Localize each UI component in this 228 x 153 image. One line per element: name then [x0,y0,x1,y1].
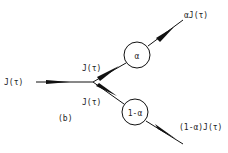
lower-output-arrow [146,121,183,144]
alpha-node-label: α [135,52,140,61]
lower-edge-label: J(τ) [82,98,101,107]
upper-output-arrow [148,20,183,46]
panel-label: (b) [58,114,72,123]
input-label: J(τ) [4,78,23,87]
upper-output-label: αJ(τ) [184,11,208,20]
flow-split-diagram: J(τ) J(τ) J(τ) α 1-α αJ(τ) (1-α)J(τ) (b) [0,0,228,153]
one-minus-alpha-node: 1-α [122,99,148,125]
input-arrow [36,80,93,84]
upper-edge-label: J(τ) [82,64,101,73]
one-minus-alpha-node-label: 1-α [128,109,143,118]
lower-output-label: (1-α)J(τ) [179,123,222,132]
alpha-node: α [124,42,150,68]
